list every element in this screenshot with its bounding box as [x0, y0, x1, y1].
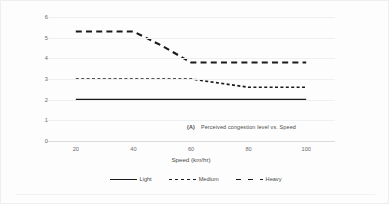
x-tick-label: 40 — [118, 146, 148, 152]
series-line-medium — [76, 79, 306, 87]
legend-label: Light — [140, 176, 152, 182]
x-tick-label: 100 — [291, 146, 321, 152]
x-axis-line — [47, 141, 335, 142]
legend-label: Medium — [199, 176, 219, 182]
legend-item-heavy[interactable]: Heavy — [236, 176, 282, 182]
legend-swatch-icon — [110, 178, 137, 181]
legend-swatch-icon — [169, 178, 196, 181]
y-tick-label: 0 — [22, 138, 48, 144]
y-tick-label: 5 — [22, 35, 48, 41]
gridline-y — [47, 100, 335, 101]
plot-area — [47, 17, 335, 141]
y-tick-label: 3 — [22, 76, 48, 82]
gridline-y — [47, 38, 335, 39]
x-tick-label: 20 — [61, 146, 91, 152]
legend-swatch-icon — [236, 178, 263, 181]
caption-text: Perceived congestion level vs. Speed — [201, 124, 296, 130]
gridline-y — [47, 79, 335, 80]
x-axis-title: Speed (km/hr) — [47, 156, 335, 163]
legend-item-light[interactable]: Light — [110, 176, 152, 182]
y-tick-label: 2 — [22, 97, 48, 103]
gridline-y — [47, 58, 335, 59]
y-tick-label: 6 — [22, 14, 48, 20]
figure-caption: (A)Perceived congestion level vs. Speed — [187, 124, 296, 130]
y-tick-label: 1 — [22, 117, 48, 123]
legend-label: Heavy — [266, 176, 282, 182]
y-axis-title: Perceived Level of Congestion — [0, 0, 1, 15]
caption-tag: (A) — [187, 124, 195, 130]
legend-item-medium[interactable]: Medium — [169, 176, 219, 182]
gridline-y — [47, 17, 335, 18]
chart-legend: LightMediumHeavy — [1, 176, 389, 182]
figure-panel: Perceived Level of Congestion Speed (km/… — [0, 0, 389, 204]
y-tick-label: 4 — [22, 55, 48, 61]
x-tick-label: 80 — [234, 146, 264, 152]
bottom-divider — [15, 194, 375, 195]
x-tick-label: 60 — [176, 146, 206, 152]
gridline-y — [47, 120, 335, 121]
